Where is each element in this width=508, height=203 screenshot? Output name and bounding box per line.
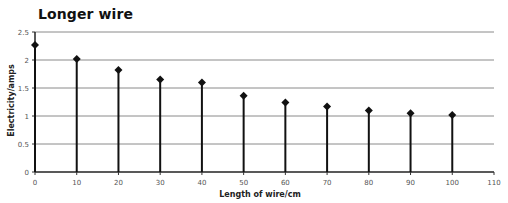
y-tick-label: 0.5 [18,141,29,149]
x-tick-label: 60 [281,179,290,187]
y-tick-label: 2 [25,57,29,65]
x-tick-label: 70 [323,179,332,187]
x-tick-label: 110 [487,179,500,187]
x-tick-label: 100 [446,179,459,187]
x-tick-label: 80 [364,179,373,187]
data-point-marker [281,99,289,107]
data-point-marker [198,78,206,86]
x-tick-label: 90 [406,179,415,187]
data-point-marker [365,106,373,114]
y-tick-label: 1.5 [18,85,29,93]
y-tick-label: 0 [25,169,29,177]
data-point-marker [156,76,164,84]
data-point-marker [73,55,81,63]
plot-area: 00.511.522.50102030405060708090100110 [0,0,508,203]
data-point-marker [31,41,39,49]
y-tick-label: 1 [25,113,29,121]
y-tick-label: 2.5 [18,29,29,37]
x-tick-label: 20 [114,179,123,187]
x-tick-label: 30 [156,179,165,187]
x-tick-label: 0 [33,179,37,187]
x-tick-label: 10 [72,179,81,187]
data-point-marker [448,111,456,119]
x-tick-label: 50 [239,179,248,187]
x-tick-label: 40 [197,179,206,187]
data-point-marker [114,66,122,74]
data-point-marker [240,92,248,100]
data-point-marker [323,102,331,110]
